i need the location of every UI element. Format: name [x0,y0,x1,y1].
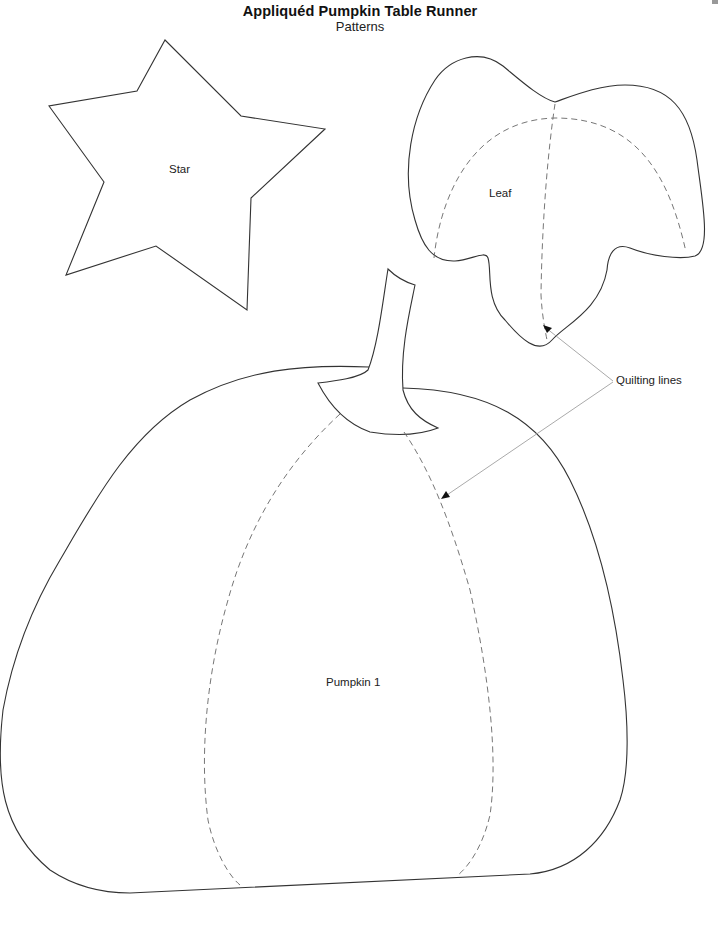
leaf-outline [408,57,704,346]
pumpkin-quilting-right [404,432,493,875]
star-outline [49,40,325,310]
pumpkin-pattern [0,269,627,893]
leaf-quilting-arc [434,118,686,258]
pumpkin-quilting-left [204,414,340,885]
pointer-to-leaf [546,328,613,381]
pointer-to-pumpkin [444,382,613,497]
pumpkin-label: Pumpkin 1 [326,676,380,688]
pumpkin-stem-outline [318,269,438,434]
leaf-quilting-center [541,104,555,340]
leaf-pattern [408,57,704,346]
pumpkin-body-outline [0,366,627,893]
star-label: Star [169,163,190,175]
star-pattern [49,40,325,310]
quilting-lines-label: Quilting lines [616,374,682,386]
pattern-artwork [0,0,720,933]
leaf-label: Leaf [489,187,511,199]
quilting-lines-pointers [441,325,613,499]
arrowhead-pumpkin-icon [441,491,450,499]
